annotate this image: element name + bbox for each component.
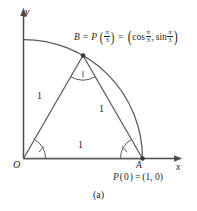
point-a-equation: P ( 0 ) = (1, 0) xyxy=(113,172,163,182)
fraction-pi-over-3: π 3 xyxy=(104,29,109,44)
vertex-label-a: A xyxy=(136,161,142,171)
paren-open-coords-icon: ( xyxy=(128,31,132,43)
sin-function-label: sin xyxy=(154,32,167,42)
y-axis-label: y xyxy=(25,7,29,17)
angle-arc-a xyxy=(121,140,132,159)
point-b-symbol: B xyxy=(74,32,80,42)
angle-tick-a xyxy=(122,146,127,152)
coordinate-pair-group: ( cos π 3 , sin π 3 ) xyxy=(127,29,179,44)
p-argument-group: ( π 3 ) xyxy=(99,29,115,44)
angle-tick-o xyxy=(39,146,44,152)
p0-open-paren: ( xyxy=(120,172,123,182)
paren-close-coords-icon: ) xyxy=(174,31,178,43)
x-axis-label: x xyxy=(176,162,180,172)
triangle-side-ba xyxy=(83,56,143,159)
figure-panel: y x O A 1 1 1 B = P ( π 3 ) = ( cos π 3 … xyxy=(0,0,197,211)
fraction-denominator: 3 xyxy=(104,36,109,44)
angle-arc-o xyxy=(35,140,46,159)
side-length-bottom: 1 xyxy=(78,140,83,150)
equals-sign-a: = xyxy=(134,172,141,182)
side-length-right: 1 xyxy=(99,104,104,114)
triangle-side-ob xyxy=(24,56,84,159)
point-b-equation: B = P ( π 3 ) = ( cos π 3 , sin π 3 ) xyxy=(74,29,179,44)
side-length-left: 1 xyxy=(37,91,42,101)
fraction-pi-over-3-cos: π 3 xyxy=(146,29,151,44)
cos-function-label: cos xyxy=(132,32,145,42)
p0-close-paren: ) xyxy=(130,172,133,182)
fraction-denominator: 3 xyxy=(167,36,172,44)
fraction-numerator: π xyxy=(146,29,151,36)
vertex-point-b xyxy=(81,53,86,58)
p0-value: (1, 0) xyxy=(142,172,163,182)
paren-open-icon: ( xyxy=(100,32,104,43)
function-p-symbol: P xyxy=(91,32,97,42)
paren-close-icon: ) xyxy=(111,32,115,43)
p0-argument: 0 xyxy=(124,172,129,182)
fraction-pi-over-3-sin: π 3 xyxy=(167,29,172,44)
fraction-denominator: 3 xyxy=(146,36,151,44)
fraction-numerator: π xyxy=(104,29,109,36)
origin-label: O xyxy=(13,160,20,170)
equals-sign-2: = xyxy=(117,32,124,42)
function-p-symbol-a: P xyxy=(113,172,119,182)
fraction-numerator: π xyxy=(167,29,172,36)
equals-sign-1: = xyxy=(82,32,89,42)
figure-caption: (a) xyxy=(0,190,197,200)
